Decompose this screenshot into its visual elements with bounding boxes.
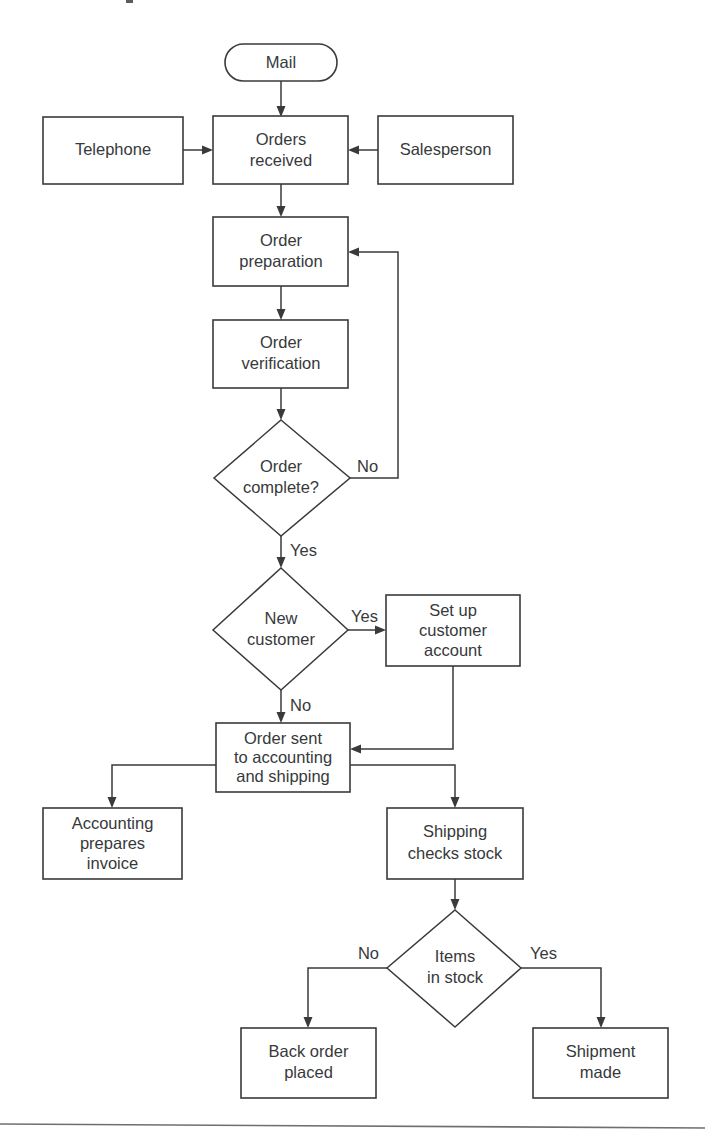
node-items-in-stock-line1: Items: [435, 947, 475, 965]
connector-verification-to-complete: [277, 388, 286, 420]
node-shipment-made[interactable]: Shipment made: [533, 1028, 668, 1098]
node-order-sent-line1: Order sent: [244, 729, 322, 747]
node-order-verification-line2: verification: [242, 354, 321, 372]
node-order-sent[interactable]: Order sent to accounting and shipping: [216, 723, 350, 792]
node-accounting-prepares-invoice[interactable]: Accounting prepares invoice: [43, 808, 182, 879]
connector-new-customer-yes: [348, 626, 386, 635]
node-new-customer-line1: New: [264, 609, 297, 627]
node-shipment-made-line2: made: [580, 1063, 621, 1081]
order-processing-flowchart: Mail Telephone Salesperson Orders receiv…: [0, 0, 705, 1142]
node-set-up-account-line2: customer: [419, 621, 487, 639]
node-back-order-line2: placed: [284, 1063, 333, 1081]
flowchart-page: Mail Telephone Salesperson Orders receiv…: [0, 0, 705, 1142]
node-accounting-line3: invoice: [87, 854, 138, 872]
node-set-up-account-line1: Set up: [429, 601, 477, 619]
connector-mail-to-orders: [277, 81, 286, 117]
edge-label-items-in-stock-no: No: [358, 944, 379, 962]
edge-label-order-complete-no: No: [357, 457, 378, 475]
connector-salesperson-to-orders: [348, 146, 378, 155]
node-mail-label: Mail: [266, 53, 296, 71]
node-orders-received[interactable]: Orders received: [213, 116, 348, 184]
node-shipment-made-line1: Shipment: [566, 1042, 636, 1060]
node-shipping-checks-line2: checks stock: [408, 844, 503, 862]
edge-label-order-complete-yes: Yes: [290, 541, 317, 559]
node-accounting-line2: prepares: [80, 834, 145, 852]
node-orders-received-line2: received: [250, 151, 312, 169]
node-salesperson[interactable]: Salesperson: [378, 116, 513, 184]
edge-label-new-customer-yes: Yes: [351, 607, 378, 625]
node-back-order-placed[interactable]: Back order placed: [241, 1028, 376, 1098]
connector-preparation-to-verification: [277, 286, 286, 320]
edge-label-new-customer-no: No: [290, 696, 311, 714]
page-bottom-rule: [0, 1124, 705, 1128]
node-salesperson-label: Salesperson: [400, 140, 492, 158]
connector-order-sent-to-shipping: [350, 765, 460, 808]
connector-shipping-to-items: [451, 879, 460, 910]
node-set-up-account-line3: account: [424, 641, 482, 659]
node-order-complete-decision[interactable]: Order complete?: [214, 420, 350, 536]
connector-complete-yes-to-new-customer: [277, 536, 286, 568]
node-order-preparation[interactable]: Order preparation: [213, 217, 348, 286]
node-mail[interactable]: Mail: [225, 44, 337, 81]
node-telephone-label: Telephone: [75, 140, 151, 158]
node-order-complete-line2: complete?: [243, 478, 319, 496]
node-set-up-customer-account[interactable]: Set up customer account: [386, 595, 520, 666]
node-order-verification-line1: Order: [260, 333, 303, 351]
node-items-in-stock-line2: in stock: [427, 968, 484, 986]
connector-items-no-to-back-order: [304, 968, 388, 1028]
node-telephone[interactable]: Telephone: [43, 117, 183, 184]
node-order-complete-line1: Order: [260, 457, 303, 475]
node-order-sent-line3: and shipping: [236, 767, 330, 785]
connector-account-to-order-sent: [350, 666, 453, 754]
node-items-in-stock-decision[interactable]: Items in stock: [387, 910, 521, 1027]
node-order-preparation-line2: preparation: [239, 252, 322, 270]
connector-items-yes-to-shipment: [521, 968, 606, 1028]
node-accounting-line1: Accounting: [72, 814, 154, 832]
connector-orders-to-preparation: [277, 184, 286, 217]
connector-new-customer-no: [277, 690, 286, 723]
node-new-customer-decision[interactable]: New customer: [213, 568, 348, 690]
scan-speck: [126, 0, 133, 3]
connector-telephone-to-orders: [183, 146, 213, 155]
node-order-verification[interactable]: Order verification: [213, 320, 348, 388]
node-order-sent-line2: to accounting: [234, 748, 332, 766]
node-shipping-checks-stock[interactable]: Shipping checks stock: [387, 808, 523, 879]
connector-order-sent-to-accounting: [108, 765, 217, 808]
edge-label-items-in-stock-yes: Yes: [530, 944, 557, 962]
node-order-preparation-line1: Order: [260, 231, 303, 249]
node-new-customer-line2: customer: [247, 630, 315, 648]
node-orders-received-line1: Orders: [256, 130, 306, 148]
node-shipping-checks-line1: Shipping: [423, 822, 487, 840]
node-back-order-line1: Back order: [269, 1042, 349, 1060]
connector-complete-no-loop: [348, 248, 398, 479]
